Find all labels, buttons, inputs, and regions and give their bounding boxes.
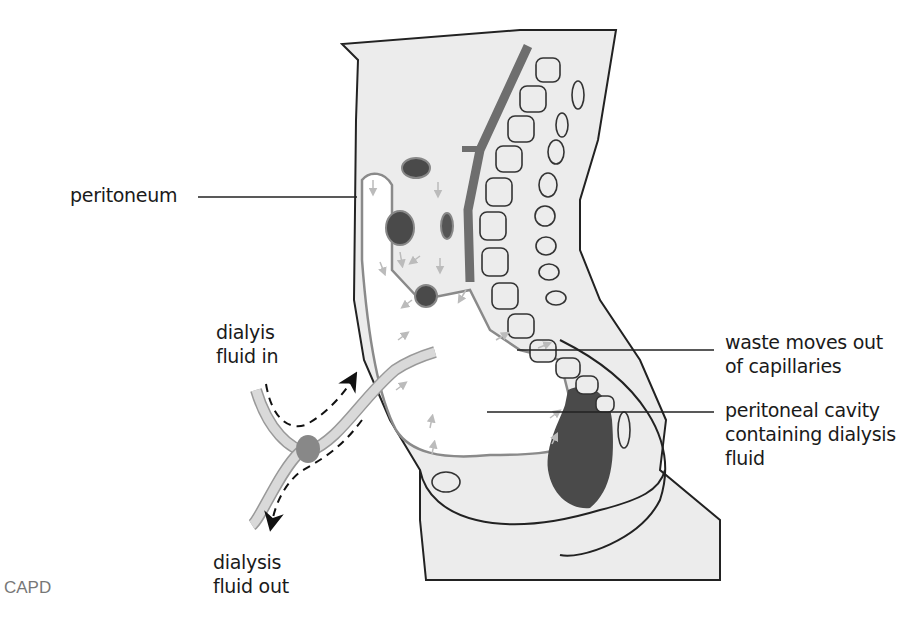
label-peritoneum: peritoneum — [70, 183, 177, 207]
label-fluid-out-line2: fluid out — [213, 574, 289, 598]
label-waste-line2: of capillaries — [725, 354, 883, 378]
catheter-connector — [296, 435, 320, 463]
figure-caption: CAPD — [4, 578, 51, 598]
label-cavity-line1: peritoneal cavity — [725, 398, 896, 422]
label-fluid-in-line1: dialyis — [216, 320, 278, 344]
label-waste: waste moves out of capillaries — [725, 330, 883, 378]
label-fluid-in: dialyis fluid in — [216, 320, 278, 368]
fluid-in-arrow — [266, 380, 352, 426]
label-waste-line1: waste moves out — [725, 330, 883, 354]
label-fluid-out-line1: dialysis — [213, 550, 289, 574]
organ-small-intestine — [441, 213, 453, 239]
organ-kidney-upper — [402, 158, 430, 178]
label-fluid-out: dialysis fluid out — [213, 550, 289, 598]
label-fluid-in-line2: fluid in — [216, 344, 278, 368]
label-cavity-line3: fluid — [725, 446, 896, 470]
label-peritoneal-cavity: peritoneal cavity containing dialysis fl… — [725, 398, 896, 470]
organ-lower-loop — [415, 285, 437, 307]
organ-upper-intestine — [386, 211, 414, 245]
capd-diagram — [0, 0, 917, 625]
pubic-bone — [432, 472, 460, 492]
label-cavity-line2: containing dialysis — [725, 422, 896, 446]
